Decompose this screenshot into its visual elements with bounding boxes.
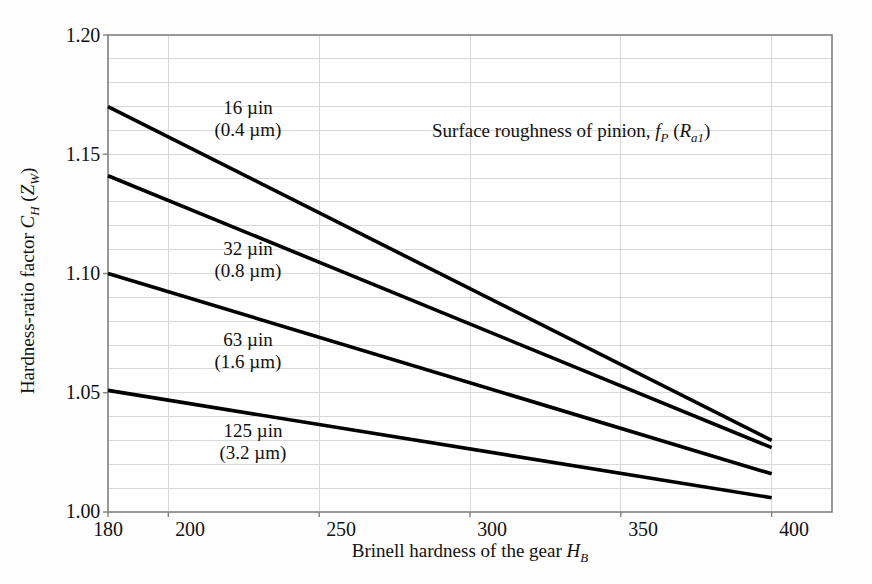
x-tick-label-400: 400: [764, 518, 824, 541]
series-label-125uin-line1: 125 µin: [178, 420, 328, 442]
series-label-125uin-line2: (3.2 µm): [178, 442, 328, 464]
x-tick-label-200: 200: [160, 518, 220, 541]
y-tick-label-1-20: 1.20: [28, 24, 100, 47]
x-tick-label-180: 180: [78, 518, 138, 541]
series-label-16uin-line2: (0.4 µm): [178, 119, 318, 141]
series-label-32uin-line2: (0.8 µm): [178, 260, 318, 282]
x-tick-label-250: 250: [311, 518, 371, 541]
chart-figure: 1.00 1.05 1.10 1.15 1.20 180 200 250 300…: [0, 0, 872, 584]
x-tick-label-350: 350: [613, 518, 673, 541]
chart-plot-svg: [0, 0, 872, 584]
series-label-63uin-line2: (1.6 µm): [178, 351, 318, 373]
series-label-16uin-line1: 16 µin: [178, 97, 318, 119]
x-axis-label: Brinell hardness of the gear HB: [108, 540, 832, 566]
series-label-63uin-line1: 63 µin: [178, 329, 318, 351]
series-label-32uin-line1: 32 µin: [178, 238, 318, 260]
x-tick-label-300: 300: [462, 518, 522, 541]
surface-roughness-note: Surface roughness of pinion, fP (Ra1): [432, 120, 710, 146]
series-label-16uin: 16 µin (0.4 µm): [178, 97, 318, 141]
series-label-32uin: 32 µin (0.8 µm): [178, 238, 318, 282]
series-label-63uin: 63 µin (1.6 µm): [178, 329, 318, 373]
series-label-125uin: 125 µin (3.2 µm): [178, 420, 328, 464]
y-axis-label: Hardness-ratio factor CH (ZW): [17, 46, 43, 516]
